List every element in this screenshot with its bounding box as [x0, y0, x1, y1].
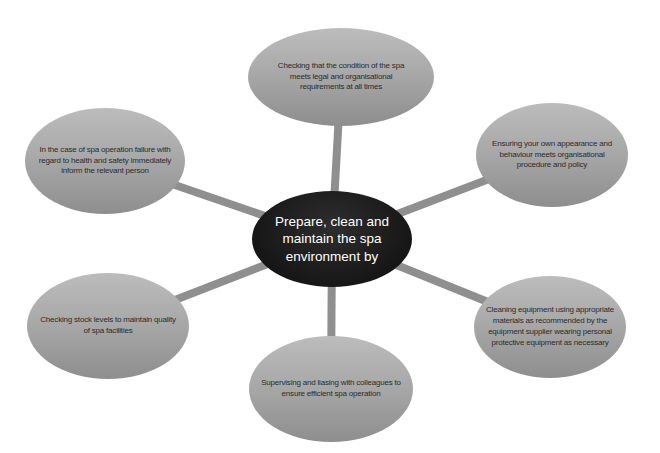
node-operation-failure: In the case of spa operation failure wit…	[25, 108, 185, 214]
node-supervising-liasing: Supervising and liasing with colleagues …	[249, 336, 413, 442]
node-supervising-liasing-label: Supervising and liasing with colleagues …	[249, 378, 413, 400]
node-cleaning-equipment: Cleaning equipment using appropriate mat…	[474, 276, 626, 378]
node-appearance-behaviour-label: Ensuring your own appearance and behavio…	[476, 139, 628, 171]
spa-environment-diagram: Checking that the condition of the spa m…	[0, 0, 660, 453]
node-checking-condition-label: Checking that the condition of the spa m…	[248, 61, 434, 93]
node-cleaning-equipment-label: Cleaning equipment using appropriate mat…	[474, 305, 626, 348]
hub-prepare-clean-maintain: Prepare, clean and maintain the spa envi…	[252, 191, 412, 287]
node-checking-stock: Checking stock levels to maintain qualit…	[27, 273, 189, 379]
hub-label: Prepare, clean and maintain the spa envi…	[252, 213, 412, 266]
node-appearance-behaviour: Ensuring your own appearance and behavio…	[476, 103, 628, 207]
node-checking-stock-label: Checking stock levels to maintain qualit…	[27, 315, 189, 337]
node-checking-condition: Checking that the condition of the spa m…	[248, 28, 434, 126]
node-operation-failure-label: In the case of spa operation failure wit…	[25, 145, 185, 177]
